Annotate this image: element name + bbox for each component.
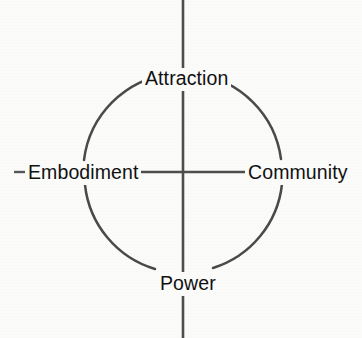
axis-label-community: Community — [245, 162, 351, 185]
axis-label-attraction: Attraction — [142, 68, 231, 91]
circle-arc-bottom-right — [213, 184, 282, 268]
diagram-canvas: Attraction Embodiment Community Power — [0, 0, 362, 338]
axis-label-embodiment: Embodiment — [25, 162, 141, 185]
circle-arc-bottom-left — [85, 185, 155, 269]
axis-label-power: Power — [157, 273, 219, 296]
